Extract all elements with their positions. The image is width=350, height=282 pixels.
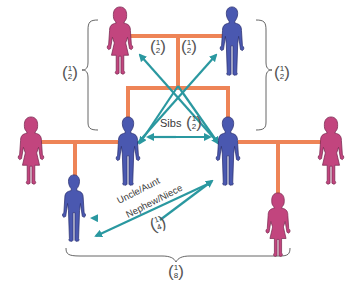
- grandparent-label-left: (12): [150, 38, 166, 55]
- pedigree-lines: [38, 36, 322, 196]
- relationship-arrows: [92, 55, 220, 236]
- pedigree-diagram: [0, 0, 350, 282]
- grandmother-figure: [107, 7, 133, 74]
- grandfather-figure: [220, 7, 244, 75]
- grandparent-label-right: (12): [181, 38, 197, 55]
- sibs-fraction: (12): [186, 114, 202, 131]
- right-child-figure: [266, 193, 290, 257]
- left-parent-figure: [116, 117, 140, 185]
- right-parent-figure: [216, 117, 240, 185]
- right-brace-label: (12): [274, 64, 290, 81]
- sibs-label: Sibs: [160, 117, 181, 129]
- left-child-figure: [62, 175, 85, 241]
- right-spouse-figure: [318, 117, 344, 184]
- cousins-fraction: (18): [168, 263, 184, 280]
- left-spouse-figure: [18, 117, 44, 184]
- left-brace-label: (12): [62, 64, 78, 81]
